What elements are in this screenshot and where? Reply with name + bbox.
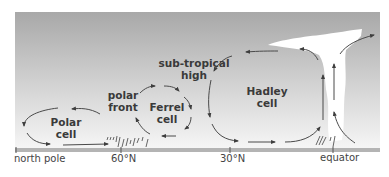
ferrel-cell-label: Ferrel cell <box>145 101 189 125</box>
subtropical-high-label: sub-tropical high <box>154 57 234 81</box>
polar-front-label: polar front <box>101 89 145 113</box>
circulation-diagram: Polar cell polar front Ferrel cell sub-t… <box>0 0 389 177</box>
axis-label-north-pole: north pole <box>14 153 65 164</box>
diagram-canvas <box>0 0 389 177</box>
axis-label-equator: equator <box>320 152 359 163</box>
axis-label-60n: 60°N <box>111 153 136 164</box>
hadley-cell-label: Hadley cell <box>241 85 293 109</box>
axis-label-30n: 30°N <box>220 153 245 164</box>
polar-cell-label: Polar cell <box>41 116 91 140</box>
